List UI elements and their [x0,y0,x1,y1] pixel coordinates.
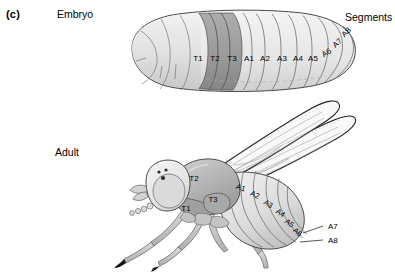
adult-label-A7: A7 [328,222,338,231]
adult-label-T2: T2 [189,174,199,183]
embryo-label-A3: A3 [277,54,287,63]
embryo-label-A4: A4 [293,54,303,63]
compound-eye [153,174,185,208]
antenna [130,185,148,200]
leg-tarsal-tips [114,259,160,272]
leg-hind-tarsus [258,250,268,268]
adult-label-T3: T3 [209,195,218,204]
adult-fly-drawing: T1 T2 T3 A1 A2 A3 A4 A5 A6 A7 A8 [114,101,356,272]
panel-label: (c) [6,8,20,20]
embryo-label-T3: T3 [227,54,237,63]
adult-label-A8: A8 [328,236,338,245]
embryo-label-A1: A1 [244,54,254,63]
embryo-label-A2: A2 [260,54,270,63]
embryo-label-T1: T1 [193,54,203,63]
drosophila-segmentation-diagram: T1 T2 T3 A1 A2 A3 A4 A5 A6 A7 A8 [0,0,395,276]
leg-mid-tarsus [158,247,182,266]
callout-line-A7 [303,226,323,233]
segments-annotation: Segments [345,11,392,23]
leg-fore-tarsus [124,242,154,263]
embryo-drawing: T1 T2 T3 A1 A2 A3 A4 A5 A6 A7 A8 [132,10,355,91]
callout-line-A8 [300,240,323,242]
embryo-stage-label: Embryo [57,8,93,20]
adult-label-T1: T1 [181,204,191,213]
adult-stage-label: Adult [55,146,79,158]
embryo-label-T2: T2 [210,54,220,63]
figure-panel-c: T1 T2 T3 A1 A2 A3 A4 A5 A6 A7 A8 [0,0,395,276]
embryo-label-A5: A5 [308,54,318,63]
proboscis [130,203,153,215]
